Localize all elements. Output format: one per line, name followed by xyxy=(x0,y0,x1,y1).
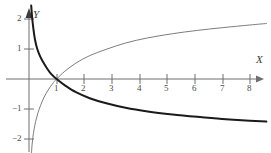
x-tick-label-4: 4 xyxy=(137,84,142,93)
x-tick-label-2: 2 xyxy=(81,84,86,93)
logarithm-graph-figure: X Y 1 2 3 4 5 6 7 8 2 1 −1 −2 xyxy=(0,0,271,153)
y-tick-label-2: 2 xyxy=(17,14,22,23)
x-axis-arrowhead xyxy=(256,76,264,83)
y-tick-label-minus-1: −1 xyxy=(12,104,22,113)
decreasing-logarithm-curve xyxy=(31,6,266,122)
plot-canvas xyxy=(0,0,271,153)
axes-group xyxy=(6,8,264,152)
x-axis-label: X xyxy=(256,54,263,65)
increasing-logarithm-curve xyxy=(31,24,266,153)
y-tick-label-minus-2: −2 xyxy=(12,134,22,143)
x-tick-label-5: 5 xyxy=(164,84,169,93)
x-tick-label-7: 7 xyxy=(220,84,225,93)
y-axis-label: Y xyxy=(33,9,39,20)
y-tick-label-1: 1 xyxy=(17,44,22,53)
x-tick-label-6: 6 xyxy=(192,84,197,93)
x-tick-label-8: 8 xyxy=(247,84,252,93)
x-tick-label-1: 1 xyxy=(54,84,59,93)
x-tick-label-3: 3 xyxy=(109,84,114,93)
